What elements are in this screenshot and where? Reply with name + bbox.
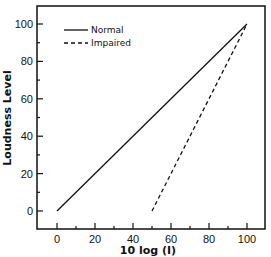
x-tick-label: 80 bbox=[203, 233, 215, 245]
x-tick-label: 100 bbox=[238, 233, 256, 245]
x-axis-title: 10 log (I) bbox=[120, 244, 176, 257]
y-axis-ticks bbox=[37, 24, 43, 211]
y-axis-title: Loudness Level bbox=[1, 70, 14, 165]
x-tick-label: 0 bbox=[54, 233, 60, 245]
y-tick-label: 20 bbox=[21, 168, 33, 180]
y-tick-label: 40 bbox=[21, 130, 33, 142]
y-tick-label: 0 bbox=[27, 205, 33, 217]
legend: Normal Impaired bbox=[64, 25, 131, 48]
x-tick-label: 20 bbox=[89, 233, 101, 245]
series-normal-line bbox=[57, 24, 247, 211]
chart: 0 20 40 60 80 100 0 20 40 60 80 100 10 l… bbox=[0, 0, 271, 257]
y-tick-label: 80 bbox=[21, 55, 33, 67]
y-tick-label: 100 bbox=[15, 18, 33, 30]
y-tick-labels: 0 20 40 60 80 100 bbox=[15, 18, 33, 217]
x-axis-ticks bbox=[57, 223, 247, 229]
series-impaired-line bbox=[152, 24, 247, 211]
legend-normal-label: Normal bbox=[91, 25, 124, 35]
legend-impaired-label: Impaired bbox=[91, 38, 131, 48]
y-tick-label: 60 bbox=[21, 93, 33, 105]
